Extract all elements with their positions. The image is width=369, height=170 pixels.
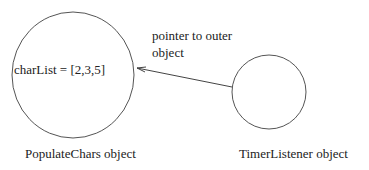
timerlistener-caption: TimerListener object: [239, 146, 348, 161]
timerlistener-object-circle: [232, 55, 306, 129]
populatechars-caption: PopulateChars object: [25, 146, 136, 161]
arrow-label-line1: pointer to outer: [152, 28, 232, 43]
diagram-canvas: [0, 0, 369, 170]
charlist-field-text: charList = [2,3,5]: [14, 62, 105, 77]
pointer-arrow-line: [137, 68, 232, 87]
arrow-label-line2: object: [152, 45, 184, 60]
